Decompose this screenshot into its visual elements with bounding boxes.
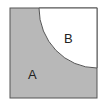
- square-quarter-circle-diagram: B A: [0, 0, 101, 103]
- region-label-a: A: [28, 67, 37, 82]
- region-label-b: B: [64, 31, 73, 46]
